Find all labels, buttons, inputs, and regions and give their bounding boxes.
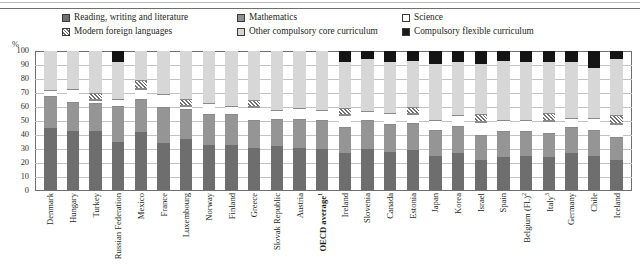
stacked-bar[interactable] (407, 51, 419, 191)
bar-segment-modern-foreign-languages (89, 93, 101, 100)
legend-item-other-core[interactable]: Other compulsory core curriculum (237, 25, 378, 38)
x-axis-label-korea: Korea (452, 193, 464, 277)
bar-segment-flexible (384, 51, 396, 62)
bar-segment-science (361, 111, 373, 121)
legend-item-mathematics[interactable]: Mathematics (237, 11, 297, 24)
stacked-bar[interactable] (225, 51, 237, 191)
bar-segment-science (157, 94, 169, 108)
bar-segment-mathematics (361, 121, 373, 149)
bar-segment-mathematics (407, 124, 419, 151)
top-rule-thick (0, 8, 640, 9)
stacked-bar[interactable] (429, 51, 441, 191)
bar-segment-science (588, 118, 600, 131)
bar-segment-science (203, 103, 215, 116)
bar-segment-reading (316, 149, 328, 191)
bar-segment-other-core (112, 62, 124, 98)
stacked-bar[interactable] (135, 51, 147, 191)
bar-segment-mathematics (316, 121, 328, 149)
bar-segment-flexible (452, 51, 464, 62)
bar-segment-science (225, 106, 237, 116)
stacked-bar[interactable] (520, 51, 532, 191)
legend-label-reading: Reading, writing and literature (74, 13, 188, 22)
legend-item-flexible[interactable]: Compulsory flexible curriculum (402, 25, 534, 38)
bar-segment-mathematics (67, 103, 79, 131)
stacked-bar[interactable] (89, 51, 101, 191)
legend-swatch-mathematics-icon (237, 14, 245, 22)
bar-segment-science (67, 89, 79, 103)
bar-segment-mathematics (429, 131, 441, 156)
stacked-bar[interactable] (610, 51, 622, 191)
bar-segment-reading (407, 150, 419, 191)
stacked-bar[interactable] (361, 51, 373, 191)
bar-segment-science (180, 106, 192, 110)
stacked-bar[interactable] (452, 51, 464, 191)
stacked-bar[interactable] (316, 51, 328, 191)
bar-segment-mathematics (520, 132, 532, 156)
legend-item-science[interactable]: Science (402, 11, 443, 24)
bar-segment-other-core (588, 68, 600, 118)
stacked-bar[interactable] (565, 51, 577, 191)
bar-segment-other-core (89, 51, 101, 93)
stacked-bar[interactable] (112, 51, 124, 191)
bar-segment-flexible (497, 51, 509, 61)
bar-segment-modern-foreign-languages (135, 80, 147, 88)
legend-item-reading[interactable]: Reading, writing and literature (62, 11, 188, 24)
bar-segment-reading (89, 131, 101, 191)
x-axis-label-france: France (157, 193, 169, 277)
x-axis-label-israel: Israel (475, 193, 487, 277)
bar-segment-mathematics (203, 115, 215, 144)
stacked-bar[interactable] (543, 51, 555, 191)
stacked-bar[interactable] (157, 51, 169, 191)
stacked-bar[interactable] (248, 51, 260, 191)
stacked-bar[interactable] (44, 51, 56, 191)
bar-segment-other-core (316, 51, 328, 110)
bar-segment-mathematics (543, 134, 555, 158)
stacked-bar[interactable] (271, 51, 283, 191)
stacked-bar[interactable] (180, 51, 192, 191)
bar-segment-modern-foreign-languages (180, 99, 192, 106)
x-axis-category-labels: DenmarkHungaryTurkeyRussian FederationMe… (35, 193, 632, 278)
bar-segment-science (497, 120, 509, 133)
bar-segment-other-core (610, 59, 622, 115)
bar-segment-flexible (429, 51, 441, 64)
bar-segment-mathematics (248, 121, 260, 148)
legend-row-2: Modern foreign languages Other compulsor… (62, 25, 592, 38)
bar-segment-science (384, 113, 396, 126)
stacked-bar[interactable] (384, 51, 396, 191)
bar-segment-mathematics (475, 136, 487, 160)
bar-segment-other-core (520, 62, 532, 119)
bar-segment-mathematics (384, 125, 396, 152)
bar-segment-reading (248, 148, 260, 191)
x-axis-label-canada: Canada (384, 193, 396, 277)
stacked-bar[interactable] (293, 51, 305, 191)
legend-item-modern-foreign-languages[interactable]: Modern foreign languages (62, 25, 172, 38)
bar-segment-mathematics (44, 97, 56, 128)
legend-label-modern-foreign-languages: Modern foreign languages (74, 27, 172, 36)
x-axis-label-germany: Germany (565, 193, 577, 277)
stacked-bar[interactable] (203, 51, 215, 191)
bar-segment-modern-foreign-languages (248, 100, 260, 107)
bar-segment-science (452, 115, 464, 126)
bar-segment-mathematics (157, 108, 169, 143)
legend-label-mathematics: Mathematics (249, 13, 297, 22)
bar-segment-mathematics (339, 128, 351, 153)
bar-segment-mathematics (293, 120, 305, 148)
stacked-bar[interactable] (475, 51, 487, 191)
stacked-bar[interactable] (67, 51, 79, 191)
bar-segment-mathematics (452, 127, 464, 154)
stacked-bar[interactable] (497, 51, 509, 191)
bar-segment-reading (497, 157, 509, 191)
bar-segment-modern-foreign-languages (610, 115, 622, 123)
bar-segment-flexible (407, 51, 419, 61)
bar-segment-science (565, 118, 577, 128)
bar-segment-other-core (497, 61, 509, 120)
x-axis-label-slovenia: Slovenia (361, 193, 373, 277)
stacked-bar[interactable] (339, 51, 351, 191)
top-rule-thin (0, 2, 640, 3)
chart-figure: Reading, writing and literature Mathemat… (0, 0, 640, 280)
bar-segment-reading (271, 146, 283, 191)
y-axis-tick-label: 60 (5, 103, 29, 111)
bar-segment-reading (157, 143, 169, 191)
x-axis-label-austria: Austria (293, 193, 305, 277)
stacked-bar[interactable] (588, 51, 600, 191)
